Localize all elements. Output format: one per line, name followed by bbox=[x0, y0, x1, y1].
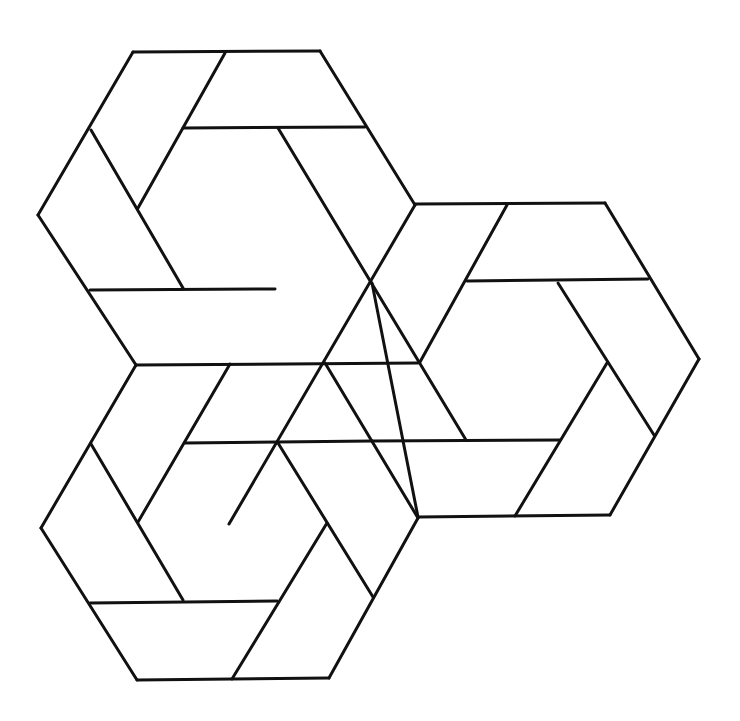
edge-line bbox=[420, 205, 507, 362]
edge-line bbox=[278, 443, 373, 597]
edge-line bbox=[558, 283, 654, 435]
edge-line bbox=[372, 440, 560, 441]
edge-line bbox=[138, 53, 225, 208]
edge-line bbox=[133, 51, 320, 52]
edge-line bbox=[605, 203, 699, 359]
hexagon-pattern-svg bbox=[0, 0, 740, 721]
interlocking-hexagons-figure bbox=[0, 0, 740, 721]
edge-line bbox=[415, 203, 605, 204]
edge-line bbox=[41, 365, 136, 528]
edge-line bbox=[90, 289, 275, 290]
edge-line bbox=[610, 359, 699, 515]
edge-line bbox=[467, 279, 648, 281]
edge-line bbox=[90, 601, 277, 603]
edge-line bbox=[136, 363, 418, 365]
edge-line bbox=[183, 127, 365, 128]
edge-line bbox=[38, 52, 133, 215]
